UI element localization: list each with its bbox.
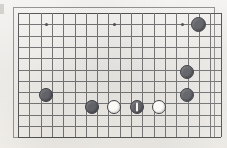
grid-line-horizontal (18, 137, 221, 138)
grid-line-vertical (199, 13, 200, 137)
grid-line-vertical (176, 13, 177, 137)
white-stone[interactable] (152, 100, 166, 114)
grid-line-vertical (154, 13, 155, 137)
black-stone[interactable] (39, 88, 53, 102)
grid-line-vertical (165, 13, 166, 137)
last-move-marker (136, 103, 138, 112)
grid-line-vertical (131, 13, 132, 137)
grid-line-vertical (29, 13, 30, 137)
grid-line-vertical (86, 13, 87, 137)
grid-line-vertical (97, 13, 98, 137)
black-stone[interactable] (85, 100, 99, 114)
grid-line-vertical (75, 13, 76, 137)
black-stone[interactable] (180, 65, 194, 79)
go-board-diagram (0, 0, 227, 148)
page-edge-artifact (0, 4, 4, 14)
black-stone[interactable] (191, 17, 206, 32)
grid-line-vertical (41, 13, 42, 137)
grid-line-vertical (120, 13, 121, 137)
grid-line-vertical (108, 13, 109, 137)
grid-line-vertical (221, 13, 222, 137)
white-stone[interactable] (107, 100, 121, 114)
grid-line-vertical (142, 13, 143, 137)
grid-line-vertical (18, 13, 19, 137)
black-stone[interactable] (130, 100, 144, 114)
grid-line-vertical (210, 13, 211, 137)
black-stone[interactable] (180, 88, 194, 102)
grid-line-vertical (52, 13, 53, 137)
grid-line-vertical (63, 13, 64, 137)
